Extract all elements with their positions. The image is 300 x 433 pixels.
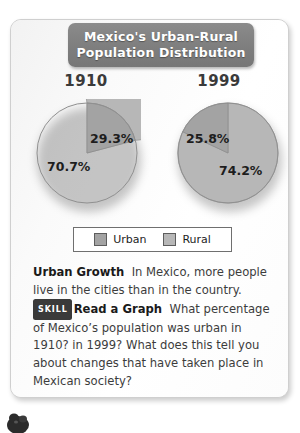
urban-growth-paragraph: Urban Growth In Mexico, more people live… [33,264,279,299]
legend-entry-urban: Urban [94,233,146,246]
year-label-1910: 1910 [41,72,131,90]
urban-growth-lead: Urban Growth [33,265,124,279]
year-label-1999: 1999 [174,72,264,90]
legend-label-rural: Rural [182,233,210,246]
pie-chart-1910: 29.3% 70.7% [28,97,146,215]
pie-1910-rural-percent: 70.7% [47,159,90,174]
pie-1999-urban-percent: 25.8% [186,131,229,146]
pie-chart-1999: 25.8% 74.2% [169,97,287,215]
title-banner: Mexico's Urban-RuralPopulation Distribut… [68,23,254,67]
pie-1910-svg [33,99,141,207]
pie-1910-urban-percent: 29.3% [90,131,133,146]
title-line-1: Mexico's Urban-Rural [84,29,238,45]
legend-entry-rural: Rural [163,233,210,246]
pie-1999-rural-percent: 74.2% [219,163,262,178]
infographic-card: 1910 1999 29.3% 70.7% [10,19,289,398]
legend-swatch-urban [94,233,107,246]
skill-lead: Read a Graph [74,302,162,316]
title-line-2: Population Distribution [76,45,245,61]
legend-swatch-rural [163,233,176,246]
skill-badge: SKILL [33,299,72,320]
caption-block: Urban Growth In Mexico, more people live… [33,264,279,390]
card-inner-surface: 1910 1999 29.3% 70.7% [11,20,288,397]
legend-label-urban: Urban [113,233,146,246]
pie-1999-svg [174,99,282,207]
corner-mark-icon [6,409,32,433]
skill-paragraph: SKILLRead a Graph What percentage of Mex… [33,299,279,390]
chart-legend: Urban Rural [73,227,232,252]
